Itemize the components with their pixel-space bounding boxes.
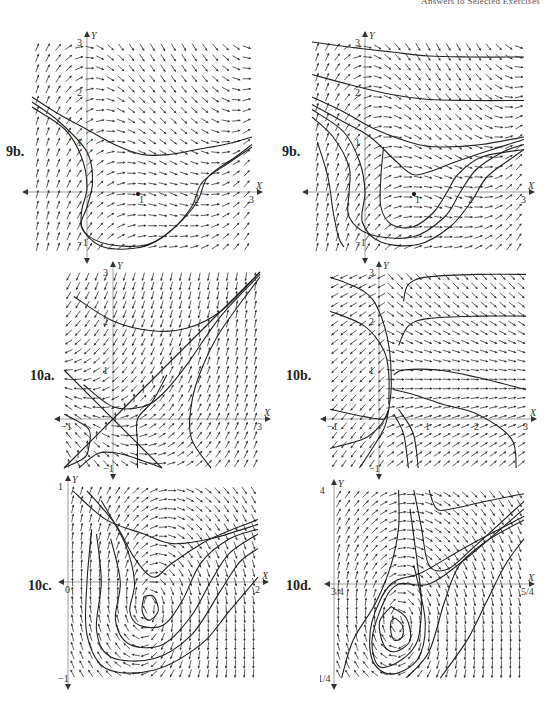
x-tick-label: −1 [61, 421, 72, 432]
x-tick-label: 3/4 [331, 586, 344, 597]
x-tick-label: 2 [474, 421, 479, 432]
y-axis-arrow-icon [65, 475, 71, 481]
x-axis-label: X [263, 407, 271, 418]
direction-field-plot: XY123−1123 [18, 28, 266, 266]
x-tick-label: 3 [257, 421, 262, 432]
plot-panel-10a: XY−13−112310a. [50, 258, 274, 486]
y-axis-label: Y [338, 478, 345, 489]
x-tick-label: 3 [523, 421, 528, 432]
slope-arrows [316, 43, 524, 251]
running-head: Answers to Selected Exercises [421, 0, 540, 6]
y-tick-label: 3 [103, 267, 108, 278]
solution-curves [330, 274, 526, 468]
y-axis-label: Y [72, 474, 79, 485]
x-axis-label: X [255, 180, 263, 191]
panel-label: 10d. [286, 578, 311, 594]
x-axis-arrow-icon [22, 189, 28, 195]
panel-label: 10c. [28, 578, 52, 594]
y-axis-arrow-icon [331, 479, 337, 485]
y-axis-arrow-icon [376, 261, 382, 267]
slope-arrows [331, 274, 526, 467]
x-tick-label: −1 [327, 421, 338, 432]
x-axis-label: X [527, 572, 535, 583]
x-axis-arrow-icon [302, 189, 308, 195]
y-axis-label: Y [369, 30, 376, 41]
plot-panel-10d: XY3/45/4−1/41/410d. [320, 476, 538, 696]
x-axis-label: X [529, 407, 537, 418]
x-axis-arrow-icon [54, 416, 60, 422]
solution-curves [64, 272, 260, 468]
x-tick-label: 1 [139, 194, 144, 205]
direction-field-plot: XY−1123−1123 [316, 258, 540, 482]
direction-field-plot: XY123−1123 [298, 28, 538, 266]
direction-field-plot: XY02−11 [54, 472, 272, 692]
panel-label: 10b. [286, 368, 311, 384]
x-axis-label: X [261, 570, 269, 581]
y-axis-label: Y [91, 30, 98, 41]
x-tick-label: 2 [255, 584, 260, 595]
equilibrium-point [412, 192, 416, 196]
y-tick-label: 1/4 [320, 485, 325, 496]
x-axis-arrow-icon [324, 581, 330, 587]
x-tick-label: 1 [415, 194, 420, 205]
slope-arrows [36, 43, 251, 250]
y-axis-arrow-icon [331, 684, 337, 690]
y-axis-arrow-icon [65, 684, 71, 690]
plot-panel-9b-right: XY123−11239b. [298, 28, 538, 270]
y-axis-arrow-icon [84, 31, 90, 37]
y-tick-label: 2 [355, 87, 360, 98]
x-tick-label: 3 [249, 194, 254, 205]
x-axis-label: X [527, 180, 535, 191]
x-tick-label: 5/4 [521, 586, 534, 597]
direction-field-plot: XY3/45/4−1/41/4 [320, 476, 538, 692]
panel-label: 10a. [30, 368, 55, 384]
plot-panel-9b-left: XY123−11239b. [18, 28, 266, 270]
y-tick-label: 1 [58, 481, 63, 492]
y-axis-label: Y [383, 260, 390, 271]
plot-panel-10c: XY02−1110c. [54, 472, 272, 696]
y-axis-label: Y [117, 260, 124, 271]
panel-label: 9b. [282, 144, 300, 160]
direction-field-plot: XY−13−1123 [50, 258, 274, 482]
y-axis-arrow-icon [110, 261, 116, 267]
panel-label: 9b. [6, 144, 24, 160]
x-tick-label: 3 [521, 194, 526, 205]
x-axis-arrow-icon [58, 579, 64, 585]
plot-panel-10b: XY−1123−112310b. [316, 258, 540, 486]
y-tick-label: −1 [369, 463, 380, 474]
y-tick-label: −1 [58, 673, 69, 684]
x-tick-label: 0 [65, 584, 70, 595]
y-axis-arrow-icon [362, 31, 368, 37]
y-tick-label: −1/4 [320, 673, 330, 684]
equilibrium-point [136, 192, 140, 196]
y-tick-label: −1 [77, 237, 88, 248]
x-axis-arrow-icon [320, 416, 326, 422]
